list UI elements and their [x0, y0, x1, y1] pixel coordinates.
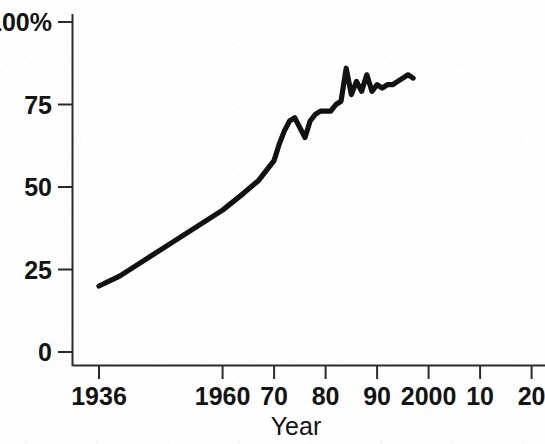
x-tick-label: 10: [466, 382, 494, 411]
x-tick-label: 70: [260, 382, 288, 411]
x-tick-label: 20: [518, 382, 545, 411]
y-axis-ticks: [58, 22, 72, 352]
data-series-line: [99, 68, 413, 286]
chart-page: 0255075100% 1936196070809020001020 Year: [0, 0, 545, 444]
x-tick-label: 90: [363, 382, 391, 411]
y-tick-label: 25: [24, 255, 52, 284]
x-tick-label: 1960: [195, 382, 251, 411]
y-tick-label: 50: [24, 173, 52, 202]
y-tick-label: 75: [24, 90, 52, 119]
line-chart-plot: [0, 0, 545, 444]
x-axis-title: Year: [271, 412, 322, 441]
x-tick-label: 2000: [401, 382, 457, 411]
x-tick-label: 80: [312, 382, 340, 411]
x-tick-label: 1936: [71, 382, 127, 411]
x-axis-ticks: [99, 366, 532, 379]
y-tick-label: 0: [38, 338, 52, 367]
y-tick-label: 100%: [0, 8, 52, 37]
